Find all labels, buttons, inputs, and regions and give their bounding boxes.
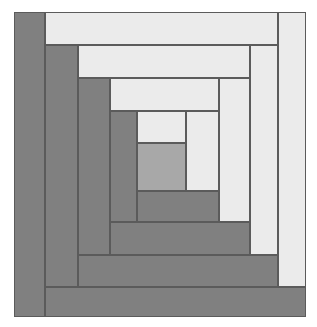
quilt-patch-round3-dark-bottom (78, 255, 278, 287)
quilt-patch-round4-light-top (45, 12, 278, 45)
quilt-patch-round2-dark-left (78, 78, 110, 255)
quilt-patch-round3-light-right (250, 45, 278, 255)
quilt-patch-round3-dark-left (45, 45, 78, 287)
quilt-patch-round2-light-top (110, 78, 219, 111)
quilt-patch-round4-light-right (278, 12, 306, 287)
quilt-patch-round1-dark-bottom (137, 191, 219, 222)
quilt-patch-round2-light-right (219, 78, 250, 222)
quilt-patch-round1-light-right (186, 111, 219, 191)
quilt-patch-center-square (137, 143, 186, 191)
quilt-patch-round3-light-top (78, 45, 250, 78)
quilt-patch-round1-light-top (137, 111, 186, 143)
quilt-patch-round1-dark-left (110, 111, 137, 222)
quilt-patch-round4-dark-left (14, 12, 45, 317)
quilt-patch-round2-dark-bottom (110, 222, 250, 255)
quilt-block-canvas (0, 0, 317, 327)
quilt-patch-round4-dark-bottom (45, 287, 306, 317)
